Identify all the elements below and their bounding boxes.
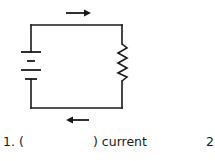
battery-icon xyxy=(21,52,41,79)
arrow-right-icon xyxy=(66,10,91,17)
question-number-label: 1. ( xyxy=(3,134,24,150)
arrow-left-icon xyxy=(66,117,89,124)
question-suffix-label: ) current xyxy=(93,134,147,150)
resistor-icon xyxy=(118,44,127,81)
next-question-number: 2 xyxy=(206,134,214,150)
